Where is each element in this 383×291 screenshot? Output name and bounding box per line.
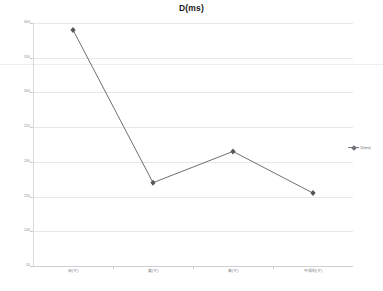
data-point-marker[interactable] — [310, 190, 315, 196]
legend-marker-icon — [348, 145, 359, 150]
series-line-d-ms — [73, 30, 313, 193]
data-point-marker[interactable] — [70, 27, 75, 33]
chart-legend: D(ms) — [348, 145, 371, 150]
chart-container: D(ms) 400 350 300 250 200 150 100 50 — [0, 0, 383, 291]
series-layer — [0, 0, 383, 291]
data-point-marker[interactable] — [230, 148, 235, 154]
series-markers — [70, 27, 315, 196]
legend-label: D(ms) — [361, 146, 371, 150]
data-point-marker[interactable] — [150, 180, 155, 186]
